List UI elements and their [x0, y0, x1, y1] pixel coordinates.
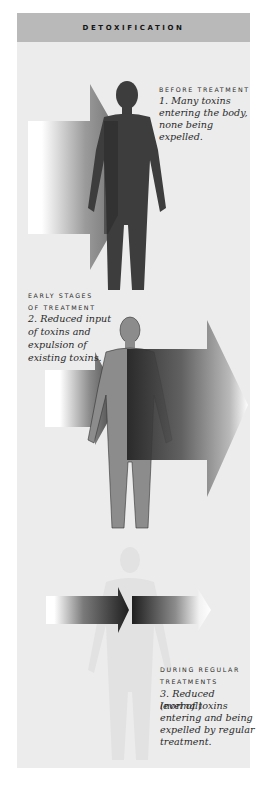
stage2-desc-line4: existing toxins. — [28, 352, 102, 364]
stage2-desc-line3: expulsion of — [28, 339, 87, 351]
stage3-desc-line2: level of toxins — [160, 700, 228, 712]
stage3-desc-line3: entering and being — [160, 712, 253, 724]
stage1-desc-line2: entering the body, — [159, 107, 247, 119]
stage3-label-line2: TREATMENTS — [160, 676, 218, 688]
stage1-desc-line3: none being expelled. — [159, 119, 256, 143]
stage2-desc-line1: 2. Reduced input — [28, 313, 111, 325]
stage2-label-line1: EARLY STAGES — [28, 290, 93, 302]
stage3-desc-line5: treatment. — [160, 736, 212, 748]
stage3-desc-line4: expelled by regular — [160, 724, 254, 736]
stage1-desc-line1: 1. Many toxins — [159, 95, 231, 107]
stage2-desc-line2: of toxins and — [28, 326, 91, 338]
stage3-label-line1: DURING REGULAR — [160, 664, 240, 676]
